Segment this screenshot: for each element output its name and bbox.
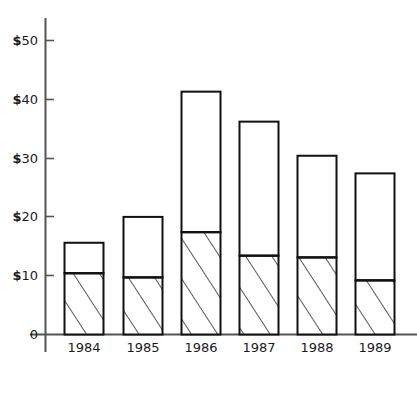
bar-segment-lower-1986 — [182, 232, 221, 334]
bar-segment-upper-1984 — [65, 243, 104, 274]
y-tick-label-10: $10 — [12, 268, 38, 283]
bar-1984 — [65, 243, 104, 335]
x-tick-label-1984: 1984 — [67, 340, 100, 355]
bar-segment-lower-1985 — [124, 277, 163, 334]
bar-segment-lower-1988 — [298, 257, 337, 334]
bar-segment-upper-1986 — [182, 92, 221, 233]
bar-1985 — [124, 217, 163, 335]
y-tick-label-0: 0 — [30, 327, 38, 342]
bar-segment-lower-1989 — [356, 280, 395, 334]
bar-chart: $50 $40 $30 $20 $10 0 1984 1985 1986 198… — [0, 0, 417, 396]
bar-segment-upper-1987 — [240, 122, 279, 256]
bar-1989 — [356, 173, 395, 334]
x-tick-label-1988: 1988 — [300, 340, 333, 355]
bar-1986 — [182, 92, 221, 335]
bar-1987 — [240, 122, 279, 335]
bar-segment-upper-1985 — [124, 217, 163, 278]
bar-segment-lower-1984 — [65, 273, 104, 334]
x-tick-label-1985: 1985 — [126, 340, 159, 355]
bar-segment-lower-1987 — [240, 256, 279, 335]
y-tick-label-20: $20 — [12, 209, 38, 224]
bar-segment-upper-1988 — [298, 156, 337, 258]
bar-1988 — [298, 156, 337, 335]
x-tick-label-1989: 1989 — [358, 340, 391, 355]
x-tick-label-1987: 1987 — [242, 340, 275, 355]
chart-canvas: $50 $40 $30 $20 $10 0 1984 1985 1986 198… — [0, 0, 417, 396]
x-tick-label-1986: 1986 — [184, 340, 217, 355]
y-tick-label-50: $50 — [12, 33, 38, 48]
y-tick-label-30: $30 — [12, 151, 38, 166]
bar-segment-upper-1989 — [356, 173, 395, 280]
y-tick-label-40: $40 — [12, 92, 38, 107]
